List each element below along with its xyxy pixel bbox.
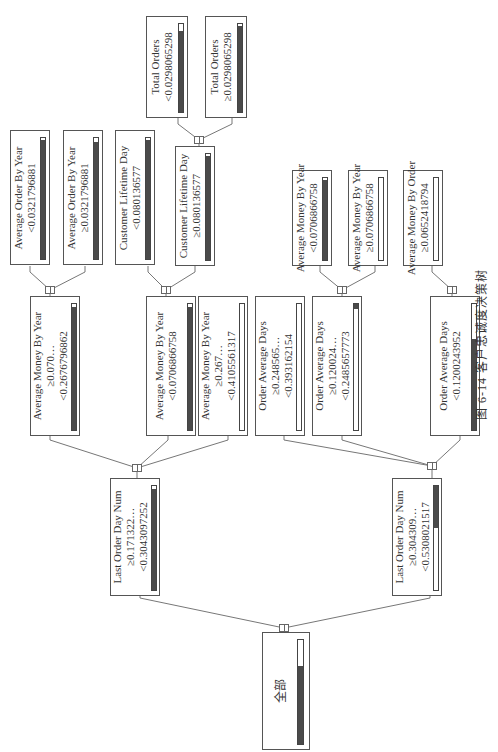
node-split-attribute: Average Order By Year [12,146,25,249]
node-split-lower: ≥0.070… [44,312,57,421]
node-split-attribute: Average Money By Year [350,164,363,273]
node-distribution-bar [297,639,304,745]
node-split-upper: <0.4105561317 [225,312,238,421]
node-split-upper: <0.2485657773 [339,321,352,411]
node-split-upper: <0.3043097252 [137,490,150,583]
node-split-lower: ≥0.120024… [326,321,339,411]
tree-node-customer-lifetime-day-lt[interactable]: Customer Lifetime Day <0.080136577 [115,130,155,265]
tree-node-root[interactable]: 全部 [262,632,310,750]
node-distribution-bar [433,485,439,591]
expand-toggle[interactable] [427,462,437,470]
node-distribution-bar [322,177,328,261]
node-split-attribute: Order Average Days [256,321,269,411]
tree-node-last-order-day-num-high[interactable]: Last Order Day Num ≥0.304309… <0.5308021… [392,478,442,596]
node-split-attribute: Average Money By Year [199,312,212,421]
tree-node-avg-order-by-year-ge[interactable]: Average Order By Year ≥0.0321796881 [63,130,103,265]
node-distribution-bar [40,137,46,260]
node-split-attribute: Average Money By Year [153,312,166,421]
expand-toggle[interactable] [194,136,204,144]
tree-node-total-orders-lt[interactable]: Total Orders <0.0298065298 [146,16,188,118]
tree-node-total-orders-ge[interactable]: Total Orders ≥0.0298065298 [205,16,247,118]
node-split-threshold: <0.0298065298 [162,32,175,101]
node-distribution-bar [433,177,439,261]
node-distribution-bar [205,153,211,261]
node-split-threshold: ≥0.0706866758 [363,164,376,273]
node-split-attribute: Last Order Day Num [393,490,406,583]
node-split-upper: <0.1200243952 [450,321,463,411]
node-split-upper: <0.5308021517 [419,490,432,583]
tree-node-avg-money-by-year-c[interactable]: Average Money By Year ≥0.267… <0.4105561… [198,296,248,436]
node-split-attribute: Average Money By Year [31,312,44,421]
node-distribution-bar [187,303,193,431]
node-split-attribute: Total Orders [208,32,221,101]
node-split-threshold: <0.080136577 [130,145,143,249]
node-split-lower: ≥0.248565… [269,321,282,411]
node-split-threshold: ≥0.0321796881 [78,146,91,249]
node-split-attribute: Last Order Day Num [111,490,124,583]
expand-toggle[interactable] [45,286,55,294]
figure-caption: 图 6-14 客户忠诚度决策树 [472,269,490,420]
expand-toggle[interactable] [279,624,289,632]
node-split-upper: <0.2676796862 [57,312,70,421]
node-split-lower: ≥0.304309… [406,490,419,583]
tree-node-avg-money-by-year-a[interactable]: Average Money By Year ≥0.070… <0.2676796… [30,296,80,436]
node-distribution-bar [237,23,243,113]
node-split-attribute: Customer Lifetime Day [177,154,190,258]
node-split-lower: ≥0.171322… [124,490,137,583]
node-split-attribute: Customer Lifetime Day [117,145,130,249]
node-split-attribute: Average Money By Year [294,164,307,273]
node-distribution-bar [71,303,77,431]
node-split-threshold: ≥0.0652418794 [418,161,431,275]
node-split-lower: ≥0.267… [212,312,225,421]
node-split-threshold: ≥0.0298065298 [221,32,234,101]
node-split-attribute: Average Money By Order [405,161,418,275]
tree-node-avg-order-by-year-lt[interactable]: Average Order By Year <0.0321796881 [10,130,50,265]
node-distribution-bar [353,303,359,431]
node-split-threshold: <0.0321796881 [25,146,38,249]
node-distribution-bar [239,303,245,431]
node-split-attribute: Average Order By Year [65,146,78,249]
tree-node-avg-money-by-order-ge[interactable]: Average Money By Order ≥0.0652418794 [403,170,443,266]
node-split-attribute: Order Average Days [313,321,326,411]
expand-toggle[interactable] [161,286,171,294]
tree-node-avg-money-by-year-ge[interactable]: Average Money By Year ≥0.0706866758 [348,170,388,266]
node-split-upper: <0.393162154 [282,321,295,411]
node-split-threshold: ≥0.080136577 [190,154,203,258]
node-distribution-bar [296,303,302,431]
node-split-attribute: Order Average Days [437,321,450,411]
node-split-upper: <0.0706866758 [166,312,179,421]
node-split-attribute: Total Orders [149,32,162,101]
node-distribution-bar [151,485,157,591]
node-distribution-bar [145,137,151,260]
node-split-threshold: <0.0706866758 [307,164,320,273]
tree-node-order-average-days-a[interactable]: Order Average Days ≥0.248565… <0.3931621… [255,296,305,436]
tree-node-order-average-days-b[interactable]: Order Average Days ≥0.120024… <0.2485657… [312,296,362,436]
node-distribution-bar [178,23,184,113]
node-distribution-bar [93,137,99,260]
tree-node-last-order-day-num-low[interactable]: Last Order Day Num ≥0.171322… <0.3043097… [110,478,160,596]
tree-node-avg-money-by-year-b[interactable]: Average Money By Year <0.0706866758 [146,296,196,436]
node-distribution-bar [378,177,384,261]
tree-node-avg-money-by-year-lt[interactable]: Average Money By Year <0.0706866758 [292,170,332,266]
expand-toggle[interactable] [132,464,142,472]
expand-toggle[interactable] [447,286,457,294]
expand-toggle[interactable] [337,286,347,294]
tree-node-customer-lifetime-day-ge[interactable]: Customer Lifetime Day ≥0.080136577 [175,146,215,266]
node-label: 全部 [274,679,289,703]
